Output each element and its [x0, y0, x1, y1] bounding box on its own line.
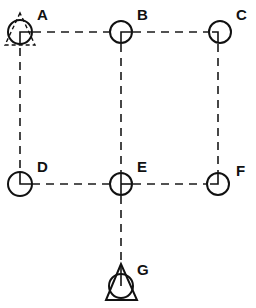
node-g-label: G: [137, 261, 149, 278]
edges: [20, 32, 218, 265]
node-a: A: [5, 6, 48, 45]
node-e: E: [110, 158, 147, 195]
node-b: B: [110, 6, 148, 43]
node-c: C: [209, 6, 247, 43]
node-f: F: [207, 162, 245, 195]
node-e-label: E: [137, 158, 147, 175]
node-f-label: F: [236, 162, 245, 179]
node-g: G: [106, 261, 149, 300]
node-b-label: B: [137, 6, 148, 23]
node-d-label: D: [37, 158, 48, 175]
node-a-label: A: [37, 6, 48, 23]
node-diagram: A B C D E F G: [0, 0, 256, 308]
node-d: D: [8, 158, 48, 196]
node-c-label: C: [236, 6, 247, 23]
